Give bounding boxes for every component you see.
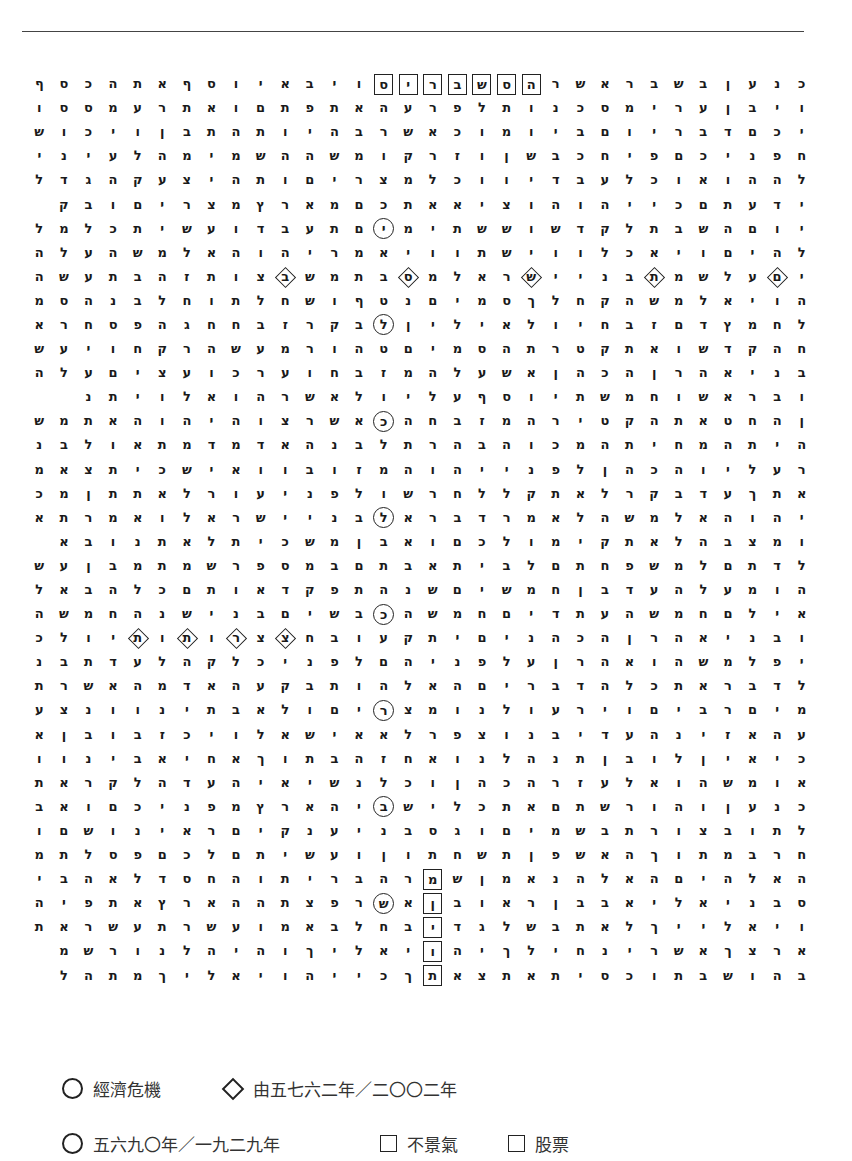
matrix-letter: ד xyxy=(765,676,790,696)
matrix-letter: פ xyxy=(617,556,642,576)
matrix-letter: ו xyxy=(371,484,396,504)
matrix-letter: ה xyxy=(568,869,593,889)
matrix-letter: ר xyxy=(421,435,446,455)
matrix-letter: ן xyxy=(593,460,618,480)
matrix-letter: ש xyxy=(421,604,446,624)
matrix-letter: ר xyxy=(175,917,200,937)
matrix-letter: י xyxy=(175,966,200,986)
matrix-letter: מ xyxy=(666,267,691,287)
matrix-letter: ע xyxy=(224,917,249,937)
matrix-letter: ל xyxy=(347,941,372,961)
matrix-letter: צ xyxy=(740,532,765,552)
matrix-letter: נ xyxy=(543,98,568,118)
matrix-letter: ס xyxy=(470,339,495,359)
matrix-letter: ר xyxy=(298,411,323,431)
matrix-letter: ש xyxy=(593,387,618,407)
matrix-letter: ח xyxy=(593,315,618,335)
matrix-letter: ה xyxy=(27,363,52,383)
matrix-letter: ב xyxy=(568,893,593,913)
matrix-letter: א xyxy=(347,98,372,118)
matrix-letter: ר xyxy=(642,628,667,648)
matrix-letter: ל xyxy=(199,532,224,552)
matrix-letter: ת xyxy=(494,966,519,986)
matrix-letter: ת xyxy=(666,411,691,431)
matrix-letter: ה xyxy=(765,170,790,190)
matrix-letter: ש xyxy=(322,773,347,793)
matrix-letter: ז xyxy=(371,749,396,769)
matrix-letter: י xyxy=(543,267,568,287)
matrix-letter: ת xyxy=(347,580,372,600)
matrix-letter: ו xyxy=(519,532,544,552)
matrix-letter: א xyxy=(617,893,642,913)
matrix-letter: ד xyxy=(765,195,790,215)
matrix-letter: ו xyxy=(273,749,298,769)
matrix-letter: ן xyxy=(716,98,741,118)
matrix-letter: מ xyxy=(396,170,421,190)
matrix-letter: כ xyxy=(175,845,200,865)
matrix-letter: כ xyxy=(568,146,593,166)
matrix-letter: מ xyxy=(125,556,150,576)
matrix-letter: ר xyxy=(519,676,544,696)
matrix-letter: ב xyxy=(740,845,765,865)
matrix-letter: ם xyxy=(543,797,568,817)
matrix-letter: ת xyxy=(125,484,150,504)
matrix-letter: ח xyxy=(789,845,814,865)
matrix-letter: ש xyxy=(175,604,200,624)
matrix-letter: ח xyxy=(593,146,618,166)
matrix-letter: ה xyxy=(371,98,396,118)
matrix-letter: י xyxy=(76,146,101,166)
matrix-letter: ב xyxy=(347,435,372,455)
matrix-letter: ש xyxy=(76,821,101,841)
matrix-letter: ף xyxy=(175,74,200,94)
matrix-letter: ח xyxy=(371,917,396,937)
matrix-letter: מ xyxy=(691,435,716,455)
matrix-letter: ם xyxy=(740,122,765,142)
matrix-letter-diamond: ת xyxy=(175,628,200,648)
matrix-letter: ה xyxy=(175,652,200,672)
matrix-letter: ב xyxy=(347,363,372,383)
matrix-letter: ק xyxy=(396,146,421,166)
matrix-letter: ב xyxy=(666,219,691,239)
matrix-letter: ה xyxy=(322,122,347,142)
matrix-letter: ר xyxy=(494,267,519,287)
matrix-letter: י xyxy=(27,146,52,166)
matrix-letter: ז xyxy=(642,315,667,335)
matrix-letter: י xyxy=(199,460,224,480)
matrix-letter: ע xyxy=(101,146,126,166)
matrix-letter: י xyxy=(298,243,323,263)
matrix-letter: א xyxy=(371,725,396,745)
matrix-letter: ל xyxy=(494,749,519,769)
matrix-letter: ש xyxy=(494,243,519,263)
matrix-letter: ל xyxy=(396,725,421,745)
matrix-letter: ת xyxy=(666,966,691,986)
matrix-letter: ת xyxy=(445,219,470,239)
matrix-letter: י xyxy=(199,146,224,166)
matrix-letter: ש xyxy=(666,941,691,961)
matrix-letter: י xyxy=(273,652,298,672)
matrix-letter: ו xyxy=(224,98,249,118)
matrix-letter: ס xyxy=(175,869,200,889)
matrix-letter: י xyxy=(76,339,101,359)
matrix-letter: ב xyxy=(322,628,347,648)
matrix-letter: ד xyxy=(716,122,741,142)
matrix-letter-box: ן xyxy=(421,893,446,914)
matrix-letter: ו xyxy=(494,170,519,190)
matrix-letter-circle: כ xyxy=(371,604,396,625)
matrix-letter: י xyxy=(568,966,593,986)
matrix-letter: נ xyxy=(396,580,421,600)
matrix-letter: כ xyxy=(76,122,101,142)
matrix-letter: נ xyxy=(298,652,323,672)
matrix-letter: ו xyxy=(642,652,667,672)
matrix-letter: י xyxy=(273,845,298,865)
matrix-letter: ו xyxy=(199,628,224,648)
matrix-letter: ת xyxy=(494,98,519,118)
matrix-letter: ו xyxy=(199,363,224,383)
matrix-letter: ח xyxy=(666,435,691,455)
matrix-letter: ק xyxy=(593,291,618,311)
matrix-letter: ו xyxy=(347,74,372,94)
matrix-letter: ץ xyxy=(716,315,741,335)
matrix-letter: ו xyxy=(445,243,470,263)
matrix-letter: ה xyxy=(691,773,716,793)
matrix-letter: ש xyxy=(691,219,716,239)
matrix-letter: ד xyxy=(175,773,200,793)
